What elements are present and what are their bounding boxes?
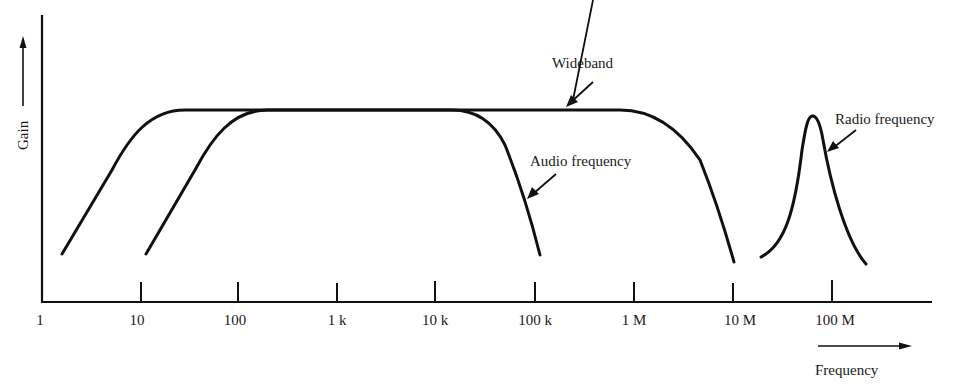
tick-label-10k: 10 k [422, 312, 449, 328]
audio-arrow-shaft [534, 174, 556, 193]
y-axis-label-group: Gain [15, 36, 31, 150]
tick-label-1M: 1 M [622, 312, 647, 328]
audio-frequency-annotation: Audio frequency [527, 153, 632, 199]
y-axis-label: Gain [15, 120, 31, 150]
audio-frequency-label: Audio frequency [530, 153, 632, 169]
x-axis-label: Frequency [815, 362, 879, 378]
tick-label-100M: 100 M [815, 312, 855, 328]
tick-label-1: 1 [36, 312, 44, 328]
up-arrow-icon [20, 36, 27, 48]
x-ticks [141, 280, 832, 302]
right-arrow-icon [899, 343, 912, 350]
wideband-label: Wideband [552, 55, 614, 71]
tick-label-10: 10 [130, 312, 145, 328]
x-tick-labels: 1 10 100 1 k 10 k 100 k 1 M 10 M 100 M [36, 312, 855, 328]
wideband-curve [62, 110, 734, 262]
audio-arrow-icon [527, 187, 539, 199]
tick-label-10M: 10 M [724, 312, 756, 328]
tick-label-100k: 100 k [518, 312, 552, 328]
wideband-annotation: Wideband [552, 0, 614, 107]
radio-frequency-label: Radio frequency [835, 111, 935, 127]
radio-frequency-curve [761, 116, 866, 264]
tick-label-100: 100 [224, 312, 247, 328]
audio-frequency-curve [146, 110, 540, 255]
radio-arrow-icon [827, 141, 839, 152]
x-axis-label-group: Frequency [815, 343, 912, 379]
radio-frequency-annotation: Radio frequency [827, 111, 935, 152]
tick-label-1k: 1 k [328, 312, 347, 328]
frequency-response-diagram: Gain 1 10 100 1 k 10 k 100 k 1 M 10 M 10… [0, 0, 980, 390]
